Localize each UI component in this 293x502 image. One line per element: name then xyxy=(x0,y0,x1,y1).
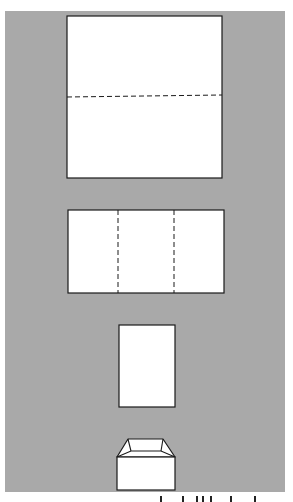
step-1-square-sheet xyxy=(67,16,222,178)
step-3-folded-thirds xyxy=(119,325,175,407)
folding-diagram xyxy=(0,0,293,502)
box-lid xyxy=(117,439,175,457)
step-4-finished-box xyxy=(117,439,175,490)
box-body xyxy=(117,457,175,490)
step-2-folded-half xyxy=(68,210,224,293)
cut-off-caption-text xyxy=(150,494,293,502)
